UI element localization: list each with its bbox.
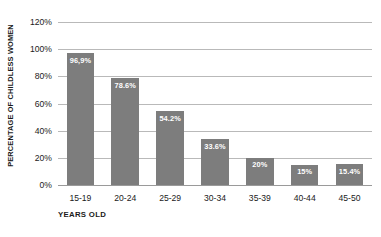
bar-series: 96,9%15-1978.6%20-2454.2%25-2933.6%30-34… [58, 22, 372, 185]
bar-group[interactable]: 33.6%30-34 [201, 22, 229, 185]
bar-value-label: 33.6% [201, 142, 229, 151]
x-axis-title: YEARS OLD [58, 210, 106, 219]
x-axis-tick-label: 45-50 [339, 193, 361, 203]
gridline: 0% [58, 185, 372, 186]
bar-group[interactable]: 15%40-44 [291, 22, 319, 185]
y-axis-title-label: PERCENTAGE OF CHILDLESS WOMEN [6, 24, 15, 167]
y-axis-tick-label: 0% [40, 180, 52, 190]
bar[interactable]: 20% [246, 158, 274, 185]
bar-group[interactable]: 15.4%45-50 [336, 22, 364, 185]
y-axis-tick-label: 20% [35, 153, 52, 163]
bar-group[interactable]: 54.2%25-29 [156, 22, 184, 185]
y-axis-title: PERCENTAGE OF CHILDLESS WOMEN [0, 0, 20, 190]
bar[interactable]: 15.4% [336, 164, 364, 185]
bar-group[interactable]: 96,9%15-19 [67, 22, 95, 185]
bar-value-label: 20% [246, 160, 274, 169]
x-axis-tick-label: 35-39 [249, 193, 271, 203]
y-axis-tick-label: 60% [35, 99, 52, 109]
x-axis-tick-label: 20-24 [114, 193, 136, 203]
x-axis-tick-label: 25-29 [159, 193, 181, 203]
bar-value-label: 15.4% [336, 167, 364, 176]
bar-value-label: 54.2% [156, 114, 184, 123]
bar-chart: PERCENTAGE OF CHILDLESS WOMEN 0%20%40%60… [0, 0, 381, 237]
x-axis-tick-label: 40-44 [294, 193, 316, 203]
y-axis-tick-label: 80% [35, 71, 52, 81]
bar[interactable]: 15% [291, 165, 319, 185]
bar[interactable]: 54.2% [156, 111, 184, 185]
x-axis-tick-label: 15-19 [69, 193, 91, 203]
bar-value-label: 78.6% [111, 81, 139, 90]
bar[interactable]: 78.6% [111, 78, 139, 185]
y-axis-tick-label: 100% [30, 44, 52, 54]
bar-value-label: 15% [291, 167, 319, 176]
plot-area: 0%20%40%60%80%100%120% 96,9%15-1978.6%20… [58, 22, 372, 185]
y-axis-tick-label: 40% [35, 126, 52, 136]
y-axis-tick-label: 120% [30, 17, 52, 27]
bar-value-label: 96,9% [67, 56, 95, 65]
bar[interactable]: 96,9% [67, 53, 95, 185]
bar[interactable]: 33.6% [201, 139, 229, 185]
bar-group[interactable]: 78.6%20-24 [111, 22, 139, 185]
x-axis-tick-label: 30-34 [204, 193, 226, 203]
bar-group[interactable]: 20%35-39 [246, 22, 274, 185]
